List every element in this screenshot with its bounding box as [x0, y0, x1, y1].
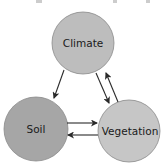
climate-label: Climate	[63, 37, 103, 49]
node-soil: Soil	[4, 97, 68, 161]
arrow-vegetation-to-climate	[106, 73, 118, 102]
arrow-climate-to-soil	[54, 70, 64, 98]
soil-label: Soil	[27, 123, 46, 135]
arrow-climate-to-vegetation	[96, 73, 109, 103]
node-climate: Climate	[52, 12, 114, 74]
climate-soil-vegetation-diagram: Climate Soil Vegetation	[0, 0, 164, 168]
vegetation-label: Vegetation	[102, 125, 159, 137]
node-vegetation: Vegetation	[98, 100, 160, 162]
